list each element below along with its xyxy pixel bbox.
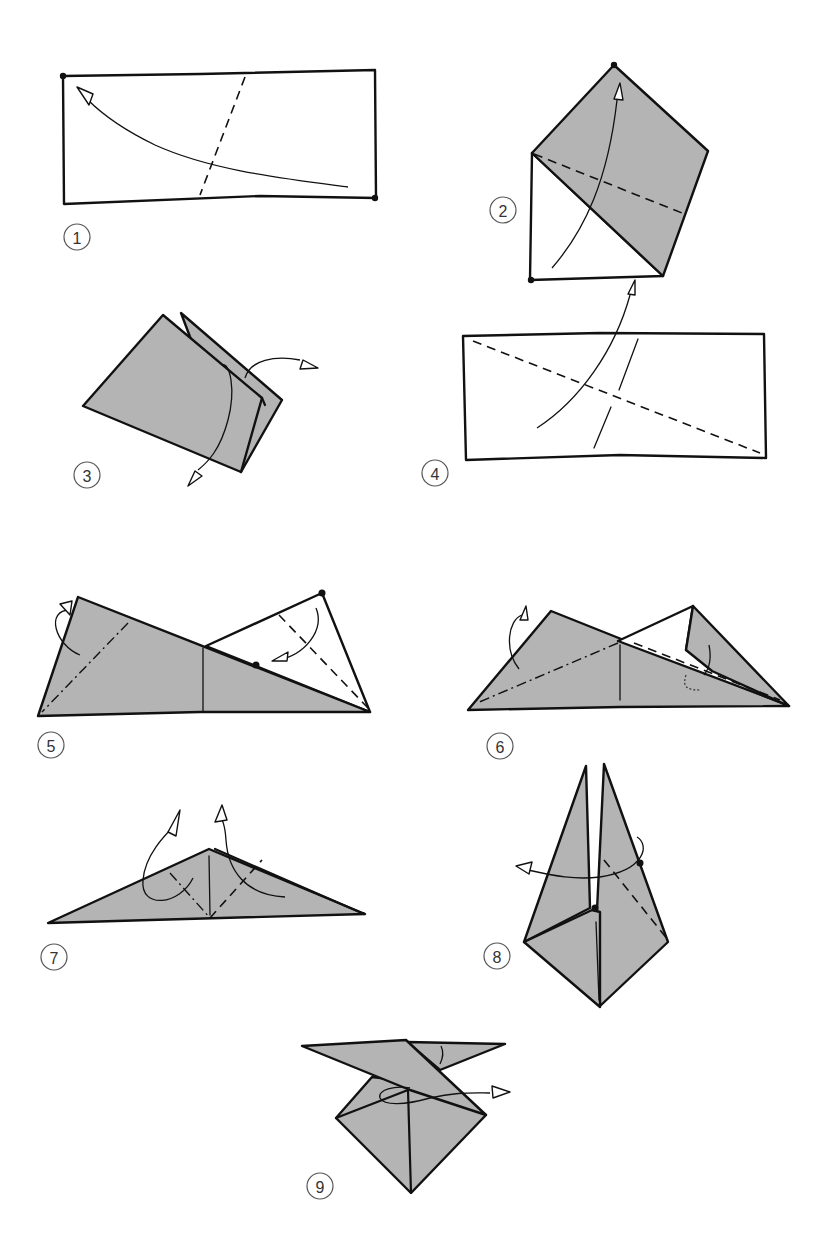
step-number-8: 8 xyxy=(484,943,510,969)
arrow-head-icon xyxy=(60,601,72,615)
front-layer xyxy=(83,315,262,472)
svg-text:8: 8 xyxy=(493,949,502,966)
svg-text:2: 2 xyxy=(499,203,508,220)
arrow-head-icon xyxy=(516,862,532,874)
svg-text:5: 5 xyxy=(47,738,56,755)
arrow-head-icon xyxy=(188,471,202,486)
step-4: 4 xyxy=(422,280,766,486)
svg-text:1: 1 xyxy=(73,230,82,247)
svg-text:4: 4 xyxy=(431,466,440,483)
right-point xyxy=(597,764,668,1006)
svg-text:7: 7 xyxy=(50,950,59,967)
step-8: 8 xyxy=(484,764,668,1007)
svg-text:3: 3 xyxy=(83,468,92,485)
step-9: 9 xyxy=(302,1040,510,1199)
step-6: 6 xyxy=(468,606,789,759)
step-number-5: 5 xyxy=(38,732,64,758)
step-number-4: 4 xyxy=(422,460,448,486)
step-number-9: 9 xyxy=(307,1173,333,1199)
svg-text:9: 9 xyxy=(316,1179,325,1196)
svg-text:6: 6 xyxy=(496,739,505,756)
arrow-head-icon xyxy=(520,606,528,620)
corner-dot xyxy=(319,590,326,597)
arrow-head-icon xyxy=(300,360,318,369)
step-5: 5 xyxy=(38,590,370,759)
step-number-2: 2 xyxy=(490,197,516,223)
step-2: 2 xyxy=(490,62,708,283)
reference-dot xyxy=(592,905,599,912)
step-3: 3 xyxy=(74,313,318,488)
arrow-head-icon xyxy=(168,810,180,836)
arrow-head-icon xyxy=(492,1086,510,1098)
arrow-head-icon xyxy=(215,805,227,822)
step-7: 7 xyxy=(41,805,365,970)
step-number-3: 3 xyxy=(74,462,100,488)
corner-dot xyxy=(611,62,617,68)
step-number-7: 7 xyxy=(41,944,67,970)
corner-dot xyxy=(528,277,534,283)
reference-dot xyxy=(253,662,260,669)
step-1: 1 xyxy=(60,70,378,250)
corner-dot xyxy=(60,73,66,79)
corner-dot xyxy=(372,195,378,201)
flattened-triangle xyxy=(48,849,365,923)
step-number-1: 1 xyxy=(64,224,90,250)
origami-diagram: 1 2 3 xyxy=(0,0,837,1247)
step-number-6: 6 xyxy=(487,733,513,759)
arrow-head-icon xyxy=(628,280,635,295)
